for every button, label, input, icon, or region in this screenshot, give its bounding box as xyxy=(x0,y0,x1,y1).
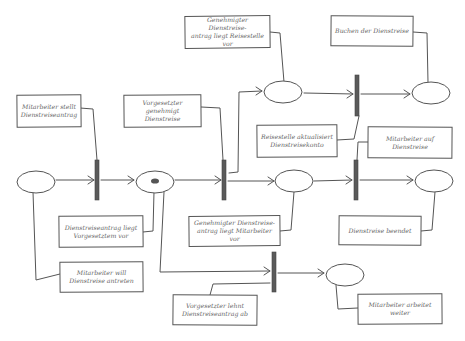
transition-t4[interactable] xyxy=(354,160,358,200)
note-dienstreise-beendet: Dienstreise beendet xyxy=(339,216,421,245)
transition-t2[interactable] xyxy=(222,160,226,200)
arc-p3-t3 xyxy=(304,93,353,94)
connector-n4 xyxy=(413,32,428,82)
connector-n10 xyxy=(33,192,60,280)
transition-t1[interactable] xyxy=(95,160,99,200)
note-antrag-liegt-reisestelle-vor: Genehmigter Dienstreise- antrag liegt Re… xyxy=(185,16,270,48)
place-p7[interactable] xyxy=(326,264,364,286)
connector-n6 xyxy=(357,142,368,160)
note-mitarbeiter-stellt-dienstreiseantrag: Mitarbeiter stellt Dienstreiseantrag xyxy=(17,95,81,127)
place-p3[interactable] xyxy=(264,81,302,103)
transition-t3[interactable] xyxy=(355,75,359,116)
place-p1[interactable] xyxy=(17,171,55,193)
token-icon xyxy=(151,178,159,183)
note-antrag-liegt-vorgesetztem-vor: Dienstreiseantrag liegt Vorgesetztem vor xyxy=(59,216,143,247)
connector-n12 xyxy=(336,285,358,309)
place-p5[interactable] xyxy=(412,82,450,104)
connector-n2 xyxy=(201,107,223,160)
note-reisestelle-aktualisiert-konto: Reisestelle aktualisiert Dienstreisekont… xyxy=(257,125,337,157)
connector-n8 xyxy=(280,192,294,231)
note-buchen-der-dienstreise: Buchen der Dienstreise xyxy=(331,16,413,46)
connector-n11 xyxy=(210,283,270,295)
connector-n5 xyxy=(337,116,359,140)
connector-n1 xyxy=(80,108,97,160)
transition-t5[interactable] xyxy=(272,252,276,292)
note-mitarbeiter-will-dienstreise-antreten: Mitarbeiter will Dienstreise antreten xyxy=(60,262,143,292)
connector-n7 xyxy=(143,192,154,232)
place-p6[interactable] xyxy=(415,170,453,192)
note-mitarbeiter-arbeitet-weiter: Mitarbeiter arbeitet weiter xyxy=(358,294,442,324)
note-antrag-liegt-mitarbeiter-vor: Genehmigter Dienstreise- antrag liegt Mi… xyxy=(189,216,280,246)
arcs xyxy=(56,87,413,277)
note-mitarbeiter-auf-dienstreise: Mitarbeiter auf Dienstreise xyxy=(368,127,452,158)
note-vorgesetzter-genehmigt-dienstreise: Vorgesetzter genehmigt Dienstreise xyxy=(124,95,201,127)
place-p4[interactable] xyxy=(275,170,313,192)
places xyxy=(17,81,453,286)
note-vorgesetzter-lehnt-antrag-ab: Vorgesetzter lehnt Dienstreiseantrag ab xyxy=(173,295,257,325)
connector-n3 xyxy=(270,32,284,82)
connector-n9 xyxy=(421,192,435,231)
arc-p4-t4 xyxy=(314,180,352,181)
